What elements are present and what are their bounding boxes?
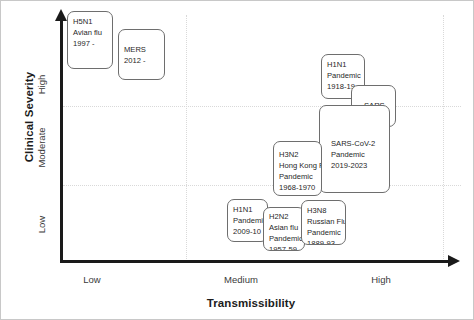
gridline-vertical-medium	[186, 15, 187, 261]
data-box-h3n2[interactable]: H3N2 Hong Kong Flu Pandemic 1968-1970	[273, 141, 322, 196]
y-tick-label-high: High	[36, 50, 47, 120]
data-box-h5n1-line3: 1997 -	[73, 38, 107, 49]
data-box-h3n8-line2: Russian Flu	[307, 216, 340, 227]
gridline-vertical-high	[443, 15, 444, 261]
data-box-sars-cov-2-line1: SARS-CoV-2	[331, 138, 384, 149]
data-box-h3n2-line3: Pandemic	[279, 171, 316, 182]
data-box-h3n2-line2: Hong Kong Flu	[279, 160, 316, 171]
data-box-h2n2-line3: Pandemic	[269, 233, 299, 244]
data-box-h2n2[interactable]: H2N2 Asian flu Pandemic 1957-59	[263, 207, 305, 251]
y-axis-arrow-icon	[55, 9, 67, 21]
data-box-h1n1-2009-line2: Pandemic	[233, 215, 262, 226]
x-tick-label-high: High	[346, 274, 416, 285]
data-box-h1n1-1918-line1: H1N1	[327, 59, 359, 70]
data-box-h3n8-line1: H3N8	[307, 205, 340, 216]
data-box-h5n1-line2: Avian flu	[73, 27, 107, 38]
data-box-h2n2-line4: 1957-59	[269, 244, 299, 251]
chart-figure: Clinical Severity Transmissibility High …	[0, 0, 474, 320]
data-box-h2n2-line1: H2N2	[269, 211, 299, 222]
x-axis-title: Transmissibility	[121, 297, 381, 309]
y-tick-label-moderate: Moderate	[36, 113, 47, 183]
data-box-h5n1[interactable]: H5N1 Avian flu 1997 -	[67, 11, 113, 69]
data-box-h3n2-line4: 1968-1970	[279, 182, 316, 193]
data-box-h3n2-line1: H3N2	[279, 149, 316, 160]
data-box-h1n1-2009-line1: H1N1	[233, 204, 262, 215]
data-box-mers-line2: 2012 -	[124, 55, 159, 66]
data-box-h1n1-1918-line2: Pandemic	[327, 70, 359, 81]
data-box-h2n2-line2: Asian flu	[269, 222, 299, 233]
data-box-sars-cov-2[interactable]: SARS-CoV-2 Pandemic 2019-2023	[319, 105, 390, 193]
x-axis-arrow-icon	[448, 255, 460, 267]
data-box-mers-line1: MERS	[124, 44, 159, 55]
data-box-sars-cov-2-line3: 2019-2023	[331, 160, 384, 171]
y-axis-title: Clinical Severity	[23, 37, 35, 197]
data-box-h3n8[interactable]: H3N8 Russian Flu Pandemic 1889-93	[301, 200, 346, 245]
y-axis-line	[60, 19, 63, 263]
y-tick-label-low: Low	[36, 190, 47, 260]
x-tick-label-low: Low	[57, 274, 127, 285]
data-box-h3n8-line3: Pandemic	[307, 227, 340, 238]
plot-area: Clinical Severity Transmissibility High …	[1, 1, 474, 320]
data-box-h1n1-2009-line3: 2009-10	[233, 226, 262, 237]
x-tick-label-medium: Medium	[206, 274, 276, 285]
gridline-horizontal-moderate	[63, 185, 461, 186]
data-box-sars-cov-2-line2: Pandemic	[331, 149, 384, 160]
gridline-horizontal-high	[63, 106, 461, 107]
data-box-mers[interactable]: MERS 2012 -	[118, 29, 165, 80]
data-box-h3n8-line4: 1889-93	[307, 238, 340, 245]
data-box-h5n1-line1: H5N1	[73, 16, 107, 27]
data-box-h1n1-2009[interactable]: H1N1 Pandemic 2009-10	[227, 199, 268, 242]
x-axis-line	[60, 260, 450, 263]
